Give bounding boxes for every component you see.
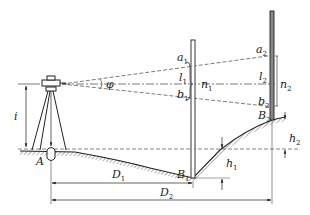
level-instrument (32, 76, 66, 161)
svg-text:b1: b1 (177, 88, 189, 103)
svg-text:n2: n2 (280, 78, 292, 93)
svg-text:B1: B1 (176, 168, 190, 183)
rod-2 (270, 11, 278, 120)
svg-text:D1: D1 (111, 168, 125, 183)
svg-text:h2: h2 (289, 132, 301, 147)
svg-text:a2: a2 (256, 43, 267, 58)
svg-text:a1: a1 (177, 51, 188, 66)
point-a-label: A (35, 155, 44, 168)
stadia-diagram: φ i A a1 l1 b1 n1 B1 h1 a2 l2 n2 b2 B2 (0, 0, 310, 215)
svg-text:b2: b2 (258, 95, 270, 110)
svg-text:l1: l1 (179, 71, 187, 86)
svg-text:h1: h1 (226, 157, 238, 172)
angle-label: φ (106, 78, 114, 91)
svg-text:l2: l2 (259, 70, 267, 85)
instrument-height-label: i (14, 110, 18, 123)
ground-profile (20, 117, 285, 182)
svg-text:D2: D2 (159, 186, 173, 201)
svg-text:B2: B2 (257, 109, 271, 124)
svg-text:n1: n1 (201, 78, 213, 93)
